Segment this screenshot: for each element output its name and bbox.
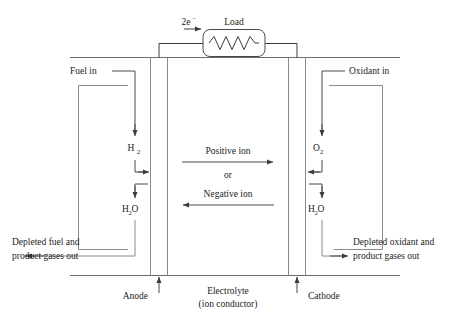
circuit-right-wire	[265, 44, 297, 58]
circuit-left-wire	[159, 44, 203, 58]
external-circuit: 2e − Load	[159, 15, 297, 58]
depleted-fuel-label-line2: product gases out	[12, 251, 79, 261]
anode-label: Anode	[123, 291, 148, 301]
oxidant-outlet-channel	[322, 220, 344, 256]
depleted-oxidant-label-line2: product gases out	[353, 251, 420, 261]
electrolyte-ion-flows: Positive ion or Negative ion	[182, 146, 274, 205]
oxygen-subscript: 2	[320, 148, 323, 155]
oxygen-into-cathode-path	[312, 160, 322, 172]
cathode-electrode	[289, 58, 306, 276]
hydrogen-label: H	[128, 143, 135, 153]
fuel-in-leader	[112, 71, 135, 133]
depleted-fuel-label-line1: Depleted fuel and	[12, 237, 80, 247]
or-label: or	[224, 170, 233, 180]
oxygen-label: O	[313, 143, 320, 153]
cell-body	[70, 58, 400, 276]
electrolyte-label-line2: (ion conductor)	[199, 299, 258, 310]
oxidant-in-label: Oxidant in	[349, 66, 390, 76]
oxidant-in-leader	[322, 71, 345, 133]
depleted-oxidant-label-line1: Depleted oxidant and	[353, 237, 435, 247]
oxidant-channel-outer	[329, 86, 383, 250]
anode-flow-group: Fuel in H 2 H 2 O Depleted fuel and prod…	[12, 66, 149, 261]
bottom-callouts: Anode Cathode Electrolyte (ion conductor…	[123, 277, 340, 310]
cathode-flow-group: Oxidant in O 2 H 2 O Depleted oxidant an…	[308, 66, 435, 261]
fuel-in-label: Fuel in	[70, 66, 97, 76]
water-out-cathode-path	[309, 184, 322, 195]
cathode-label: Cathode	[308, 291, 340, 301]
water-out-anode-path	[135, 184, 148, 195]
electron-charge-sign: −	[193, 15, 197, 22]
hydrogen-subscript: 2	[137, 148, 140, 155]
positive-ion-label: Positive ion	[205, 146, 250, 156]
anode-water-oxygen: O	[132, 204, 139, 214]
electrolyte-label-line1: Electrolyte	[207, 286, 249, 296]
fuel-channel-outer	[79, 86, 129, 250]
load-label: Load	[224, 17, 244, 27]
electron-label: 2e	[182, 17, 191, 27]
anode-electrode	[151, 58, 168, 276]
cathode-water-oxygen: O	[318, 204, 325, 214]
negative-ion-label: Negative ion	[204, 189, 253, 199]
hydrogen-into-anode-path	[135, 160, 146, 172]
fuel-cell-diagram: 2e − Load Fuel in H 2 H 2 O Depleted fue…	[0, 0, 468, 317]
fuel-cell-schematic: 2e − Load Fuel in H 2 H 2 O Depleted fue…	[0, 0, 468, 317]
